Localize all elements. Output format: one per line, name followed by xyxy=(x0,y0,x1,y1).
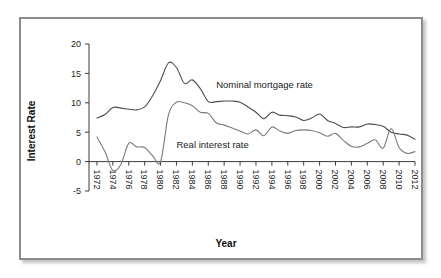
y-axis-tick-label: -5 xyxy=(73,186,81,196)
x-axis-title: Year xyxy=(215,238,236,249)
figure-root: Interest Rate Year -505101520 1972197419… xyxy=(0,0,441,278)
x-axis-tick-label: 1996 xyxy=(283,170,293,190)
y-axis-tick-label: 10 xyxy=(71,98,81,108)
x-axis-tick-label: 1978 xyxy=(139,170,149,190)
chart-frame: Interest Rate Year -505101520 1972197419… xyxy=(19,17,423,260)
x-axis-tick-label: 1986 xyxy=(203,170,213,190)
x-axis-tick-label: 2012 xyxy=(410,170,420,190)
x-axis-tick-label: 1992 xyxy=(251,170,261,190)
series-annotation-label: Real interest rate xyxy=(176,139,248,150)
x-axis: 1972197419761978198019821984198619881990… xyxy=(89,162,420,190)
x-axis-tick-label: 2000 xyxy=(314,170,324,190)
y-axis-title: Interest Rate xyxy=(26,100,37,161)
y-axis-tick-label: 15 xyxy=(71,69,81,79)
x-axis-tick-label: 1990 xyxy=(235,170,245,190)
series-line-nominal-mortgage-rate xyxy=(97,62,415,139)
x-axis-tick-label: 2002 xyxy=(330,170,340,190)
x-axis-tick-label: 2008 xyxy=(378,170,388,190)
series-annotation-label: Nominal mortgage rate xyxy=(216,79,313,90)
annotation-group: Nominal mortgage rateReal interest rate xyxy=(176,79,312,151)
x-axis-tick-label: 2010 xyxy=(394,170,404,190)
x-axis-tick-label: 1974 xyxy=(108,170,118,190)
x-axis-tick-label: 1994 xyxy=(267,170,277,190)
y-axis: -505101520 xyxy=(71,39,89,196)
interest-rate-line-chart: Interest Rate Year -505101520 1972197419… xyxy=(21,19,421,258)
x-axis-tick-label: 1982 xyxy=(171,170,181,190)
x-axis-tick-label: 1998 xyxy=(298,170,308,190)
x-axis-tick-label: 2006 xyxy=(362,170,372,190)
x-axis-tick-label: 1980 xyxy=(155,170,165,190)
y-axis-tick-label: 20 xyxy=(71,39,81,49)
x-axis-tick-label: 2004 xyxy=(346,170,356,190)
x-axis-tick-label: 1988 xyxy=(219,170,229,190)
y-axis-tick-label: 0 xyxy=(76,157,81,167)
x-axis-tick-label: 1972 xyxy=(92,170,102,190)
x-axis-tick-label: 1984 xyxy=(187,170,197,190)
x-axis-tick-label: 1976 xyxy=(124,170,134,190)
y-axis-tick-label: 5 xyxy=(76,128,81,138)
